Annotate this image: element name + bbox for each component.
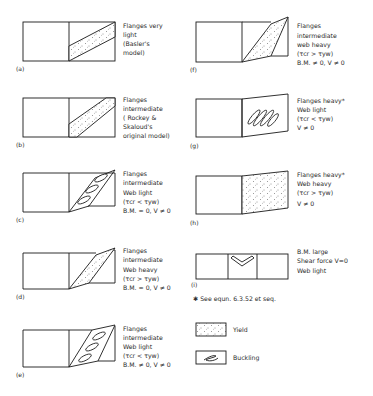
svg-text:intermediate: intermediate: [123, 334, 163, 341]
buckle-chevron: [231, 256, 254, 266]
svg-text:original model): original model): [123, 132, 170, 140]
yield-band: [242, 17, 288, 62]
svg-text:Web light: Web light: [123, 189, 153, 197]
svg-text:light: light: [123, 31, 137, 39]
svg-text:B.M. = 0, V ≠ 0: B.M. = 0, V ≠ 0: [123, 207, 171, 214]
svg-text:( Rockey &: ( Rockey &: [123, 114, 156, 122]
svg-text:(τcr > τyw): (τcr > τyw): [123, 275, 159, 283]
svg-text:Flanges very: Flanges very: [123, 22, 163, 30]
buckling-swatch: [196, 351, 226, 364]
svg-text:(τcr < τyw): (τcr < τyw): [297, 115, 333, 123]
panel-b-description: Flanges intermediate ( Rockey & Skaloud'…: [123, 96, 170, 140]
panel-f: (f) Flanges intermediate web heavy (τcr …: [190, 17, 345, 73]
panel-tag: (i): [191, 281, 197, 288]
svg-text:Web light: Web light: [123, 343, 153, 351]
panel-i-description: B.M. large Shear force V=0 Web light: [297, 248, 348, 275]
svg-text:intermediate: intermediate: [123, 256, 163, 263]
svg-text:Flanges: Flanges: [123, 247, 147, 255]
panel-c: (c) Flanges intermediate Web light (τcr …: [16, 170, 171, 223]
svg-text:Flanges: Flanges: [297, 22, 321, 30]
panel-g: (g) Flanges heavy* Web light (τcr < τyw)…: [190, 94, 345, 150]
panel-f-description: Flanges intermediate web heavy (τcr > τy…: [297, 22, 345, 66]
svg-text:B.M. ≠ 0, V ≠ 0: B.M. ≠ 0, V ≠ 0: [123, 361, 171, 368]
panel-tag: (c): [16, 216, 24, 223]
panel-tag: (e): [16, 371, 24, 378]
yield-swatch: [196, 323, 226, 336]
footnote: ✱ See equn. 6.3.52 et seq.: [193, 295, 276, 303]
panel-b: (b) Flanges intermediate ( Rockey & Skal…: [16, 96, 170, 148]
svg-text:Flanges: Flanges: [123, 325, 147, 333]
svg-text:V ≠ 0: V ≠ 0: [297, 200, 314, 207]
legend-item-yield: Yield: [196, 323, 248, 336]
yield-band: [69, 98, 115, 137]
panel-a: (a) Flanges very light (Basler's model): [16, 22, 163, 72]
legend: Yield Buckling: [196, 323, 260, 364]
panel-h: (h) Flanges heavy* Web heavy (τcr > τyw)…: [190, 171, 345, 226]
legend-item-buckling: Buckling: [196, 351, 260, 364]
svg-text:(τcr > τyw): (τcr > τyw): [297, 189, 333, 197]
svg-text:Flanges: Flanges: [123, 96, 147, 104]
panel-e: (e) Flanges intermediate Web light (τcr …: [16, 325, 171, 378]
svg-text:web heavy: web heavy: [297, 41, 331, 49]
legend-label: Yield: [232, 326, 248, 333]
svg-text:Web heavy: Web heavy: [297, 180, 332, 188]
legend-label: Buckling: [233, 354, 260, 362]
svg-text:(τcr > τyw): (τcr > τyw): [297, 50, 333, 58]
panel-tag: (f): [190, 66, 197, 73]
tension-field-diagram: (a) Flanges very light (Basler's model) …: [0, 0, 373, 396]
svg-text:intermediate: intermediate: [123, 105, 163, 112]
panel-d-description: Flanges intermediate Web heavy (τcr > τy…: [123, 247, 171, 291]
panel-e-description: Flanges intermediate Web light (τcr < τy…: [123, 325, 171, 368]
panel-d: (d) Flanges intermediate Web heavy (τcr …: [16, 247, 171, 300]
buckle: [92, 331, 107, 342]
svg-text:(τcr < τyw): (τcr < τyw): [123, 352, 159, 360]
panel-tag: (b): [16, 141, 25, 148]
panel-c-description: Flanges intermediate Web light (τcr < τy…: [123, 170, 171, 214]
svg-text:Shear force V=0: Shear force V=0: [297, 257, 348, 264]
panel-tag: (d): [16, 293, 25, 300]
svg-text:Web light: Web light: [297, 106, 327, 114]
panel-i: (i) B.M. large Shear force V=0 Web light: [191, 248, 348, 288]
svg-text:intermediate: intermediate: [297, 32, 337, 39]
svg-text:Flanges: Flanges: [123, 170, 147, 178]
svg-text:B.M. large: B.M. large: [297, 248, 328, 256]
svg-text:model): model): [123, 49, 145, 56]
svg-text:(τcr < τyw): (τcr < τyw): [123, 198, 159, 206]
panel-h-description: Flanges heavy* Web heavy (τcr > τyw) V ≠…: [297, 171, 345, 207]
svg-text:Web light: Web light: [297, 267, 327, 275]
panel-tag: (a): [16, 65, 24, 72]
svg-text:Flanges heavy*: Flanges heavy*: [297, 97, 345, 105]
panel-tag: (g): [190, 142, 199, 150]
svg-text:B.M. = 0, V ≠ 0: B.M. = 0, V ≠ 0: [123, 284, 171, 291]
buckle-icon: [204, 356, 218, 361]
svg-text:intermediate: intermediate: [123, 179, 163, 186]
panel-tag: (h): [190, 219, 198, 226]
svg-text:B.M. ≠ 0, V ≠ 0: B.M. ≠ 0, V ≠ 0: [297, 59, 345, 66]
panel-g-description: Flanges heavy* Web light (τcr < τyw) V ≠…: [297, 97, 345, 131]
svg-text:Skaloud's: Skaloud's: [123, 123, 152, 130]
svg-text:(Basler's: (Basler's: [123, 40, 150, 47]
yield-field: [242, 171, 288, 214]
svg-text:Flanges heavy*: Flanges heavy*: [297, 171, 345, 179]
svg-text:Web heavy: Web heavy: [123, 266, 158, 274]
svg-text:V ≠ 0: V ≠ 0: [297, 124, 314, 131]
panel-a-description: Flanges very light (Basler's model): [123, 22, 163, 56]
yield-band: [69, 22, 115, 61]
